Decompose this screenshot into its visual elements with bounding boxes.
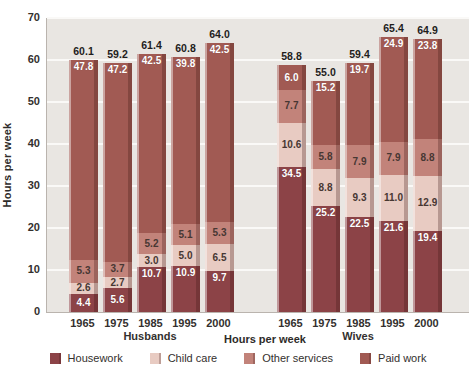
segment-other: 5.3 (69, 260, 98, 282)
segment-value-label: 47.8 (74, 62, 93, 72)
segment-childcare: 3.0 (137, 254, 166, 267)
x-tick-label-2000: 2000 (196, 317, 241, 329)
y-tick-label-0: 0 (0, 305, 40, 317)
bar-husbands-1975: 47.23.72.75.6 (103, 63, 132, 312)
segment-value-label: 34.5 (282, 169, 301, 179)
legend-swatch-housework (50, 353, 61, 364)
legend: Housework Child care Other services Paid… (0, 352, 476, 364)
bar-husbands-1995: 39.85.15.010.9 (171, 57, 200, 312)
bar-wives-1975: 15.25.88.825.2 (311, 81, 340, 312)
segment-value-label: 19.4 (418, 233, 437, 243)
bar-wives-1995: 24.97.911.021.6 (379, 37, 408, 312)
segment-value-label: 4.4 (77, 298, 91, 308)
segment-housework: 25.2 (311, 206, 340, 312)
bar-total-label: 64.9 (405, 24, 450, 36)
segment-childcare: 12.9 (413, 176, 442, 230)
segment-paid: 42.5 (137, 54, 166, 233)
legend-swatch-childcare (150, 353, 161, 364)
segment-value-label: 3.7 (111, 264, 125, 274)
segment-value-label: 5.8 (319, 152, 333, 162)
legend-item-childcare: Child care (150, 352, 218, 364)
segment-value-label: 7.9 (353, 157, 367, 167)
gridline-70 (47, 17, 469, 19)
segment-value-label: 3.0 (145, 256, 159, 266)
segment-other: 7.9 (379, 142, 408, 175)
segment-value-label: 7.7 (285, 101, 299, 111)
y-tick-label-20: 20 (0, 221, 40, 233)
y-tick-label-50: 50 (0, 95, 40, 107)
segment-value-label: 39.8 (176, 59, 195, 69)
segment-paid: 47.8 (69, 60, 98, 261)
segment-childcare: 11.0 (379, 175, 408, 221)
segment-value-label: 5.1 (179, 230, 193, 240)
segment-value-label: 11.0 (384, 193, 403, 203)
segment-other: 5.1 (171, 224, 200, 245)
segment-other: 5.3 (205, 222, 234, 244)
y-tick-label-40: 40 (0, 137, 40, 149)
segment-childcare: 6.5 (205, 244, 234, 271)
bar-wives-1985: 19.77.99.322.5 (345, 63, 374, 312)
segment-value-label: 5.2 (145, 239, 159, 249)
segment-value-label: 24.9 (384, 39, 403, 49)
segment-value-label: 2.6 (77, 283, 91, 293)
y-axis-title: Hours per week (1, 105, 13, 225)
segment-housework: 34.5 (277, 167, 306, 312)
segment-housework: 10.7 (137, 267, 166, 312)
segment-value-label: 5.0 (179, 251, 193, 261)
legend-item-other-services: Other services (244, 352, 333, 364)
segment-other: 7.9 (345, 145, 374, 178)
y-tick-label-70: 70 (0, 11, 40, 23)
bar-husbands-1985: 42.55.23.010.7 (137, 54, 166, 312)
segment-value-label: 5.6 (111, 295, 125, 305)
segment-value-label: 5.3 (213, 228, 227, 238)
segment-value-label: 9.7 (213, 273, 227, 283)
segment-value-label: 15.2 (316, 83, 335, 93)
bar-husbands-2000: 42.55.36.59.7 (205, 43, 234, 312)
y-tick-label-30: 30 (0, 179, 40, 191)
segment-paid: 24.9 (379, 37, 408, 142)
segment-other: 5.8 (311, 145, 340, 169)
bar-total-label: 60.8 (163, 42, 208, 54)
segment-paid: 47.2 (103, 63, 132, 261)
legend-swatch-paid (360, 353, 371, 364)
segment-childcare: 8.8 (311, 169, 340, 206)
segment-value-label: 2.7 (111, 278, 125, 288)
segment-other: 8.8 (413, 139, 442, 176)
segment-other: 5.2 (137, 233, 166, 255)
segment-value-label: 10.6 (282, 140, 301, 150)
segment-value-label: 21.6 (384, 223, 403, 233)
legend-swatch-other (244, 353, 255, 364)
bar-total-label: 64.0 (197, 28, 242, 40)
bar-wives-1965: 6.07.710.634.5 (277, 65, 306, 312)
segment-value-label: 5.3 (77, 266, 91, 276)
legend-item-paid-work: Paid work (360, 352, 426, 364)
x-axis-title: Hours per week (155, 333, 375, 345)
legend-label-childcare: Child care (168, 352, 218, 364)
legend-label-other-services: Other services (262, 352, 333, 364)
legend-label-paid-work: Paid work (378, 352, 426, 364)
segment-value-label: 10.7 (142, 269, 161, 279)
segment-value-label: 42.5 (142, 56, 161, 66)
segment-housework: 19.4 (413, 231, 442, 312)
segment-value-label: 25.2 (316, 208, 335, 218)
segment-paid: 6.0 (277, 65, 306, 90)
segment-value-label: 23.8 (418, 41, 437, 51)
segment-value-label: 12.9 (418, 198, 437, 208)
plot-area: 47.85.32.64.460.147.23.72.75.659.242.55.… (46, 18, 469, 313)
segment-paid: 39.8 (171, 57, 200, 224)
segment-paid: 23.8 (413, 39, 442, 139)
segment-paid: 15.2 (311, 81, 340, 145)
y-tick-label-10: 10 (0, 263, 40, 275)
segment-housework: 22.5 (345, 217, 374, 312)
chart: Hours per week 47.85.32.64.460.147.23.72… (0, 0, 476, 376)
segment-childcare: 5.0 (171, 245, 200, 266)
legend-label-housework: Housework (68, 352, 123, 364)
segment-paid: 42.5 (205, 43, 234, 222)
bar-total-label: 58.8 (269, 50, 314, 62)
bar-wives-2000: 23.88.812.919.4 (413, 39, 442, 312)
segment-other: 7.7 (277, 90, 306, 122)
segment-other: 3.7 (103, 262, 132, 278)
segment-value-label: 8.8 (319, 183, 333, 193)
bar-total-label: 55.0 (303, 66, 348, 78)
segment-housework: 5.6 (103, 288, 132, 312)
